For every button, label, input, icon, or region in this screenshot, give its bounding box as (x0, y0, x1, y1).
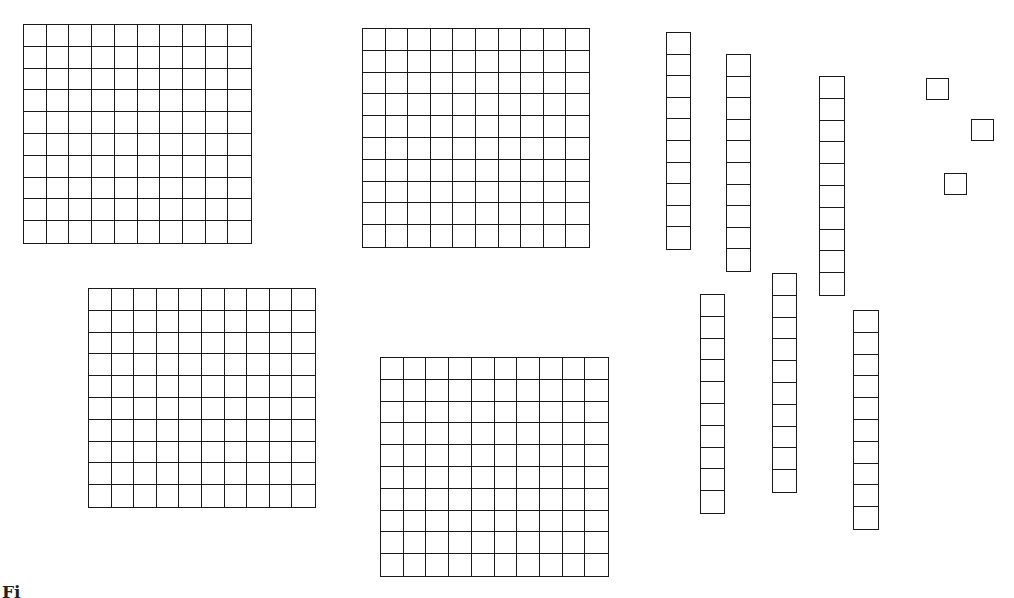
flat-cell (472, 380, 495, 402)
flat-cell (476, 203, 499, 225)
flat-cell (183, 47, 206, 69)
flat-cell (386, 116, 409, 138)
hundreds-flat (88, 288, 316, 508)
flat-cell (449, 532, 472, 554)
flat-cell (544, 138, 567, 160)
flat-cell (228, 199, 251, 221)
flat-cell (138, 156, 161, 178)
flat-cell (47, 134, 70, 156)
flat-cell (495, 402, 518, 424)
rod-cell (701, 426, 724, 448)
flat-cell (517, 423, 540, 445)
flat-cell (228, 69, 251, 91)
flat-cell (112, 289, 135, 311)
rod-cell (727, 98, 750, 120)
flat-cell (566, 73, 589, 95)
rod-cell (667, 98, 690, 120)
flat-cell (89, 420, 112, 442)
flat-cell (431, 29, 454, 51)
flat-cell (544, 51, 567, 73)
flat-cell (134, 333, 157, 355)
flat-cell (134, 398, 157, 420)
flat-cell (92, 112, 115, 134)
flat-cell (112, 485, 135, 507)
rod-cell (820, 121, 844, 143)
flat-cell (499, 116, 522, 138)
flat-cell (225, 289, 248, 311)
flat-cell (47, 178, 70, 200)
flat-cell (363, 73, 386, 95)
flat-cell (179, 398, 202, 420)
flat-cell (566, 29, 589, 51)
flat-cell (115, 69, 138, 91)
flat-cell (89, 463, 112, 485)
flat-cell (408, 182, 431, 204)
flat-cell (381, 489, 404, 511)
flat-cell (270, 354, 293, 376)
flat-cell (292, 442, 315, 464)
flat-cell (92, 47, 115, 69)
flat-cell (449, 467, 472, 489)
flat-cell (92, 90, 115, 112)
flat-cell (115, 47, 138, 69)
flat-cell (138, 199, 161, 221)
flat-cell (499, 160, 522, 182)
flat-cell (292, 420, 315, 442)
flat-cell (566, 116, 589, 138)
flat-cell (408, 203, 431, 225)
flat-cell (24, 90, 47, 112)
flat-cell (183, 25, 206, 47)
flat-cell (115, 25, 138, 47)
flat-cell (476, 116, 499, 138)
flat-cell (386, 73, 409, 95)
flat-cell (292, 311, 315, 333)
flat-cell (47, 69, 70, 91)
flat-cell (585, 423, 608, 445)
flat-cell (381, 467, 404, 489)
flat-cell (157, 420, 180, 442)
figure-caption-partial: Fi (2, 582, 21, 598)
rod-cell (667, 163, 690, 185)
flat-cell (521, 203, 544, 225)
flat-cell (225, 311, 248, 333)
flat-cell (270, 420, 293, 442)
rod-cell (820, 251, 844, 273)
flat-cell (115, 134, 138, 156)
rod-cell (820, 77, 844, 99)
rod-cell (773, 296, 796, 318)
rod-cell (854, 311, 878, 333)
flat-cell (566, 203, 589, 225)
flat-cell (179, 333, 202, 355)
flat-cell (453, 138, 476, 160)
flat-cell (381, 402, 404, 424)
flat-cell (585, 358, 608, 380)
flat-cell (228, 156, 251, 178)
flat-cell (92, 178, 115, 200)
flat-cell (247, 463, 270, 485)
hundreds-flat (23, 24, 252, 244)
flat-cell (563, 380, 586, 402)
rod-cell (727, 206, 750, 228)
rod-cell (727, 141, 750, 163)
flat-cell (408, 160, 431, 182)
flat-cell (566, 225, 589, 247)
flat-cell (206, 134, 229, 156)
flat-cell (228, 47, 251, 69)
flat-cell (115, 199, 138, 221)
flat-cell (517, 445, 540, 467)
flat-cell (585, 380, 608, 402)
flat-cell (112, 333, 135, 355)
unit-cube (971, 119, 994, 141)
flat-cell (408, 51, 431, 73)
flat-cell (92, 199, 115, 221)
flat-cell (566, 182, 589, 204)
rod-cell (820, 208, 844, 230)
flat-cell (404, 467, 427, 489)
flat-cell (157, 398, 180, 420)
flat-cell (544, 116, 567, 138)
flat-cell (404, 402, 427, 424)
flat-cell (179, 376, 202, 398)
flat-cell (381, 554, 404, 576)
flat-cell (449, 423, 472, 445)
flat-cell (157, 376, 180, 398)
